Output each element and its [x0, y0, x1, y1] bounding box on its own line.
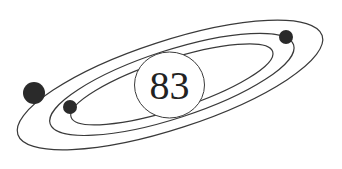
electron-inner: [63, 100, 77, 114]
electron-outer: [23, 82, 45, 104]
electron-middle: [279, 30, 293, 44]
nucleus-label: 83: [150, 63, 190, 108]
atom-diagram: 83: [0, 0, 342, 169]
